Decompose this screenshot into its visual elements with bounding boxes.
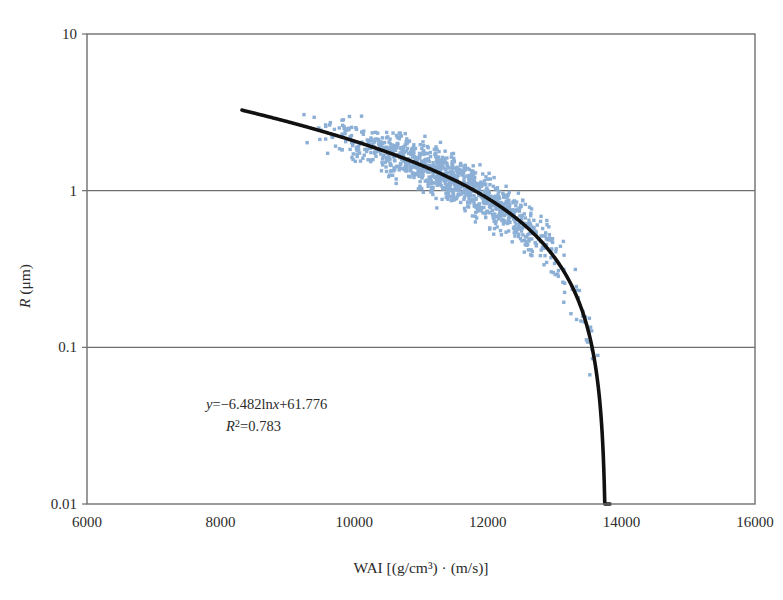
scatter-point xyxy=(429,181,432,184)
scatter-point xyxy=(466,193,469,196)
scatter-point xyxy=(351,158,354,161)
x-tick-label-8000: 8000 xyxy=(206,514,236,530)
scatter-point xyxy=(417,175,420,178)
scatter-point xyxy=(459,169,462,172)
scatter-point xyxy=(451,170,454,173)
scatter-point xyxy=(497,195,500,198)
scatter-point xyxy=(478,163,481,166)
scatter-point xyxy=(445,166,448,169)
scatter-point xyxy=(354,126,357,129)
scatter-point xyxy=(482,189,485,192)
scatter-point xyxy=(536,223,539,226)
scatter-point xyxy=(450,160,453,163)
scatter-point xyxy=(529,212,532,215)
scatter-point xyxy=(399,131,402,134)
scatter-point xyxy=(516,228,519,231)
scatter-point xyxy=(541,234,544,237)
scatter-point xyxy=(391,131,394,134)
scatter-chart: 1010.10.01 6000800010000120001400016000 … xyxy=(0,0,783,600)
scatter-point xyxy=(517,191,520,194)
scatter-point xyxy=(543,254,546,257)
scatter-point xyxy=(492,232,495,235)
scatter-point xyxy=(411,154,414,157)
figure-container: 1010.10.01 6000800010000120001400016000 … xyxy=(0,0,783,600)
scatter-point xyxy=(557,269,560,272)
scatter-point xyxy=(340,119,343,122)
scatter-point xyxy=(535,244,538,247)
scatter-point xyxy=(388,162,391,165)
scatter-point xyxy=(430,185,433,188)
scatter-point xyxy=(452,152,455,155)
scatter-point xyxy=(451,188,454,191)
scatter-point xyxy=(523,212,526,215)
scatter-point xyxy=(381,157,384,160)
scatter-point xyxy=(524,203,527,206)
scatter-point xyxy=(545,219,548,222)
scatter-point xyxy=(426,145,429,148)
scatter-point xyxy=(507,229,510,232)
scatter-point xyxy=(399,135,402,138)
scatter-point xyxy=(433,153,436,156)
scatter-point xyxy=(363,153,366,156)
scatter-point xyxy=(466,167,469,170)
fit-equation-line1: y=−6.482lnx+61.776 xyxy=(204,396,327,412)
scatter-point xyxy=(381,136,384,139)
scatter-point xyxy=(514,209,517,212)
scatter-point xyxy=(380,169,383,172)
scatter-point xyxy=(463,196,466,199)
scatter-point xyxy=(527,219,530,222)
scatter-point xyxy=(476,210,479,213)
scatter-point xyxy=(437,150,440,153)
scatter-point xyxy=(357,148,360,151)
x-tick-label-12000: 12000 xyxy=(469,514,507,530)
scatter-point xyxy=(499,229,502,232)
scatter-point xyxy=(551,237,554,240)
scatter-point xyxy=(422,191,425,194)
scatter-point xyxy=(500,233,503,236)
scatter-point xyxy=(492,216,495,219)
scatter-point xyxy=(574,268,577,271)
scatter-point xyxy=(421,171,424,174)
scatter-point xyxy=(539,215,542,218)
scatter-point xyxy=(457,173,460,176)
scatter-point xyxy=(485,210,488,213)
scatter-point xyxy=(524,216,527,219)
scatter-point xyxy=(420,160,423,163)
scatter-point xyxy=(411,147,414,150)
scatter-point xyxy=(431,161,434,164)
scatter-point xyxy=(588,317,591,320)
scatter-point xyxy=(480,207,483,210)
scatter-point xyxy=(468,177,471,180)
scatter-point xyxy=(585,338,588,341)
scatter-point xyxy=(449,182,452,185)
scatter-point xyxy=(439,159,442,162)
y-tick-label-0.01: 0.01 xyxy=(51,496,77,512)
scatter-point xyxy=(400,146,403,149)
scatter-point xyxy=(482,199,485,202)
scatter-point xyxy=(456,187,459,190)
scatter-point xyxy=(548,233,551,236)
scatter-point xyxy=(517,207,520,210)
scatter-point xyxy=(433,181,436,184)
scatter-point xyxy=(588,373,591,376)
scatter-point xyxy=(452,192,455,195)
scatter-point xyxy=(484,175,487,178)
scatter-point xyxy=(486,201,489,204)
scatter-point xyxy=(579,319,582,322)
scatter-point xyxy=(472,180,475,183)
scatter-point xyxy=(569,312,572,315)
scatter-point xyxy=(329,121,332,124)
scatter-point xyxy=(374,155,377,158)
scatter-point xyxy=(474,185,477,188)
scatter-point xyxy=(513,199,516,202)
scatter-point xyxy=(474,220,477,223)
x-axis-title: WAI [(g/cm³) · (m/s)] xyxy=(353,559,488,577)
scatter-point xyxy=(545,223,548,226)
scatter-point xyxy=(348,148,351,151)
scatter-point xyxy=(495,188,498,191)
scatter-point xyxy=(409,164,412,167)
scatter-point xyxy=(473,205,476,208)
scatter-point xyxy=(312,116,315,119)
scatter-point xyxy=(420,176,423,179)
scatter-point xyxy=(561,281,564,284)
